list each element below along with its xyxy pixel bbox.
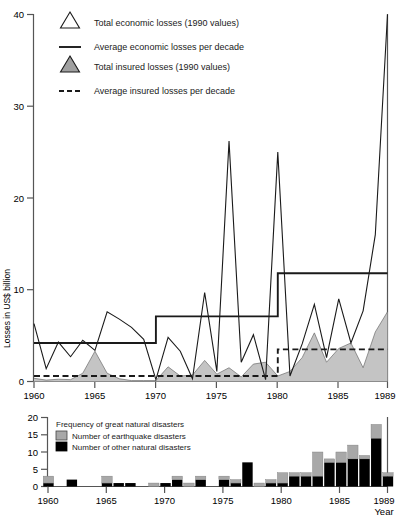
freq-xtick-1980: 1980 [271,495,292,506]
freq-ytick-0: 0 [33,481,38,492]
bar-earthquake-1976 [231,480,241,483]
losses-xtick-1960: 1960 [23,390,44,401]
freq-legend-label-1: Number of other natural disasters [72,443,191,452]
bar-other-1985 [336,462,346,486]
freq-legend-label-0: Number of earthquake disasters [72,432,186,441]
losses-ytick-0: 0 [19,376,24,387]
losses-xtick-1980: 1980 [267,390,288,401]
losses-xtick-1985: 1985 [327,390,348,401]
losses-ytick-30: 30 [13,101,24,112]
bar-other-1962 [67,480,77,487]
losses-x-ticks [34,382,388,389]
losses-xtick-1989: 1989 [374,390,395,401]
losses-y-ticks [27,15,34,382]
losses-xtick-1970: 1970 [145,390,166,401]
bar-other-1977 [242,462,252,486]
losses-ytick-40: 40 [13,9,24,20]
losses-legend-label-2: Total insured losses (1990 values) [94,62,230,72]
bar-earthquake-1973 [195,476,205,479]
bar-earthquake-1979 [266,480,276,483]
freq-ytick-10: 10 [27,447,38,458]
bar-other-1984 [324,462,334,486]
bar-earthquake-1978 [254,483,264,486]
freq-xtick-1975: 1975 [212,495,233,506]
losses-legend: Total economic losses (1990 values) Aver… [59,12,244,96]
bar-other-1983 [313,476,323,486]
frequency-chart: 20 15 10 5 0 1960 1965 1970 1975 1980 19… [0,409,399,519]
losses-ytick-10: 10 [13,284,24,295]
losses-xtick-1975: 1975 [206,390,227,401]
bar-other-1988 [371,438,381,486]
bar-earthquake-1975 [219,476,229,479]
bar-other-1971 [172,480,182,487]
bar-earthquake-1985 [336,452,346,462]
frequency-legend: Frequency of great natural disasters Num… [56,420,191,452]
losses-chart: 40 30 20 10 0 Losses in US$ billion 1960… [0,0,399,410]
bar-earthquake-1989 [383,473,393,476]
freq-ytick-20: 20 [27,412,38,423]
bar-earthquake-1986 [348,445,358,459]
bar-earthquake-1971 [172,476,182,479]
losses-xtick-1965: 1965 [84,390,105,401]
freq-ytick-5: 5 [33,464,38,475]
black-swatch-icon [56,442,67,451]
bar-other-1976 [231,483,241,486]
bar-other-1975 [219,480,229,487]
open-triangle-icon [61,12,80,28]
bar-earthquake-1981 [289,473,299,476]
freq-xtick-1989: 1989 [373,495,394,506]
freq-legend-title: Frequency of great natural disasters [56,420,184,429]
freq-xtick-1960: 1960 [37,495,58,506]
bar-other-1987 [359,459,369,487]
freq-x-ticks [48,487,388,494]
losses-y-axis-title: Losses in US$ billion [2,269,12,348]
bar-earthquake-1965 [102,476,112,483]
bar-other-1967 [125,483,135,486]
bar-earthquake-1982 [301,473,311,476]
freq-ytick-15: 15 [27,429,38,440]
bar-other-1960 [43,483,53,486]
losses-legend-label-1: Average economic losses per decade [94,42,244,52]
bar-earthquake-1960 [43,476,53,483]
bar-other-1970 [160,483,170,486]
gray-swatch-icon [56,431,67,440]
bar-earthquake-1983 [313,452,323,476]
bar-earthquake-1984 [324,459,334,462]
freq-x-axis-title: Year [374,506,393,517]
bar-earthquake-1972 [184,483,194,486]
insured-losses-area [34,312,388,382]
filled-triangle-icon [61,56,80,72]
bar-other-1982 [301,476,311,486]
bar-earthquake-1969 [149,483,159,486]
losses-ytick-20: 20 [13,193,24,204]
bar-other-1965 [102,483,112,486]
losses-legend-label-3: Average insured losses per decade [94,86,235,96]
bar-other-1966 [113,483,123,486]
bar-other-1989 [383,476,393,486]
bar-earthquake-1980 [277,473,287,483]
bar-earthquake-1988 [371,424,381,438]
bar-other-1981 [289,476,299,486]
bar-other-1979 [266,483,276,486]
losses-legend-label-0: Total economic losses (1990 values) [94,18,239,28]
freq-xtick-1965: 1965 [96,495,117,506]
freq-xtick-1985: 1985 [329,495,350,506]
bar-other-1973 [195,480,205,487]
figure-root: 40 30 20 10 0 Losses in US$ billion 1960… [0,0,399,519]
bar-other-1986 [348,459,358,487]
freq-xtick-1970: 1970 [154,495,175,506]
bar-other-1980 [277,483,287,486]
bar-earthquake-1987 [359,455,369,458]
